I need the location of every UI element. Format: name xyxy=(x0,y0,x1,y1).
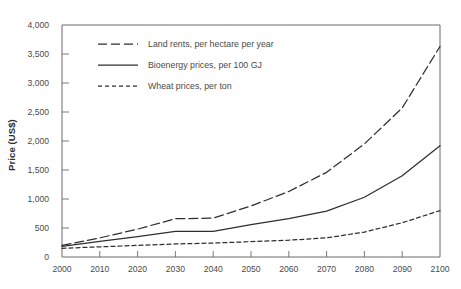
x-tick-label: 2040 xyxy=(204,264,223,274)
y-tick-label: 3,500 xyxy=(27,49,49,59)
x-tick-marks xyxy=(100,251,402,257)
x-tick-label: 2080 xyxy=(355,264,374,274)
x-tick-label: 2090 xyxy=(393,264,412,274)
y-tick-label: 3,000 xyxy=(27,78,49,88)
series-line-1 xyxy=(62,146,440,247)
legend-label-0: Land rents, per hectare per year xyxy=(148,39,274,49)
x-tick-label: 2000 xyxy=(52,264,71,274)
y-tick-marks xyxy=(62,54,69,228)
y-tick-label: 4,000 xyxy=(27,20,49,30)
series-line-2 xyxy=(62,211,440,249)
data-series-group xyxy=(62,46,440,248)
x-tick-label: 2030 xyxy=(166,264,185,274)
chart-canvas: 05001,0001,5002,0002,5003,0003,5004,000 … xyxy=(0,0,461,289)
x-tick-label: 2050 xyxy=(241,264,260,274)
chart-figure: Price (US$) 05001,0001,5002,0002,5003,00… xyxy=(0,0,461,289)
y-tick-label: 1,500 xyxy=(27,165,49,175)
y-tick-label: 1,000 xyxy=(27,194,49,204)
y-tick-label: 2,500 xyxy=(27,107,49,117)
series-line-0 xyxy=(62,46,440,245)
x-tick-labels: 2000201020202030204020502060207020802090… xyxy=(52,264,449,274)
y-tick-label: 500 xyxy=(35,223,50,233)
x-tick-label: 2060 xyxy=(279,264,298,274)
y-tick-labels: 05001,0001,5002,0002,5003,0003,5004,000 xyxy=(27,20,49,262)
legend-label-1: Bioenergy prices, per 100 GJ xyxy=(148,60,262,70)
chart-legend: Land rents, per hectare per yearBioenerg… xyxy=(98,39,274,91)
legend-label-2: Wheat prices, per ton xyxy=(148,81,232,91)
x-tick-label: 2100 xyxy=(430,264,449,274)
x-tick-label: 2070 xyxy=(317,264,336,274)
x-tick-label: 2020 xyxy=(128,264,147,274)
y-tick-label: 0 xyxy=(44,252,49,262)
x-tick-label: 2010 xyxy=(90,264,109,274)
y-tick-label: 2,000 xyxy=(27,136,49,146)
